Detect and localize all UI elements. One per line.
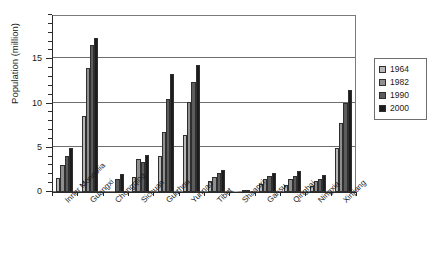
y-tick-minor <box>48 120 52 121</box>
y-tick-major <box>46 58 52 59</box>
y-tick-minor <box>48 182 52 183</box>
legend-item: 2000 <box>379 102 423 115</box>
legend-item: 1990 <box>379 89 423 102</box>
y-tick-minor <box>48 138 52 139</box>
y-tick-minor <box>48 32 52 33</box>
legend-label-1964: 1964 <box>390 65 409 74</box>
legend-swatch-1964 <box>379 66 386 73</box>
y-tick-major <box>46 103 52 104</box>
legend-label-1990: 1990 <box>390 91 409 100</box>
y-tick-minor <box>48 67 52 68</box>
legend: 1964 1982 1990 2000 <box>374 58 427 120</box>
bar <box>69 148 73 192</box>
legend-swatch-2000 <box>379 105 386 112</box>
legend-item: 1982 <box>379 76 423 89</box>
y-axis-ticks <box>46 15 52 192</box>
x-tick <box>52 192 53 196</box>
y-tick-minor <box>48 173 52 174</box>
y-axis-title: Population (million) <box>9 4 20 124</box>
legend-label-2000: 2000 <box>390 104 409 113</box>
bar <box>348 90 352 192</box>
legend-item: 1964 <box>379 63 423 76</box>
legend-swatch-1990 <box>379 92 386 99</box>
y-axis-line <box>52 15 53 193</box>
y-tick-minor <box>48 49 52 50</box>
bar <box>170 74 174 192</box>
y-tick-minor <box>48 111 52 112</box>
y-tick-minor <box>48 23 52 24</box>
y-tick-label: 5 <box>22 143 42 152</box>
y-tick-minor <box>48 94 52 95</box>
bar <box>145 155 149 192</box>
y-tick-minor <box>48 85 52 86</box>
y-tick-minor <box>48 76 52 77</box>
y-tick-label: 0 <box>22 187 42 196</box>
y-tick-minor <box>48 14 52 15</box>
population-bar-chart: Population (million) 051015 Inner Mongol… <box>0 0 434 264</box>
y-tick-major <box>46 147 52 148</box>
legend-swatch-1982 <box>379 79 386 86</box>
y-tick-label: 10 <box>22 99 42 108</box>
y-tick-minor <box>48 129 52 130</box>
bar <box>196 65 200 192</box>
y-tick-label: 15 <box>22 54 42 63</box>
y-tick-minor <box>48 164 52 165</box>
y-tick-minor <box>48 156 52 157</box>
y-tick-minor <box>48 41 52 42</box>
legend-label-1982: 1982 <box>390 78 409 87</box>
